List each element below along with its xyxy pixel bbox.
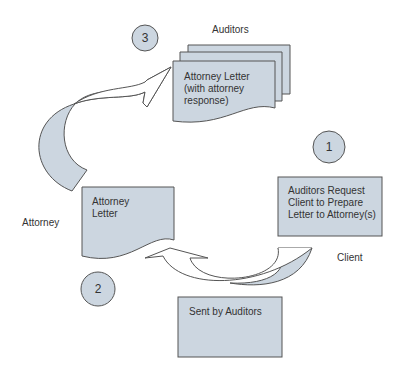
party-label-attorney: Attorney	[22, 217, 59, 229]
step-1-number: 1	[314, 140, 344, 154]
party-label-client: Client	[337, 252, 363, 264]
client-request-line-3: Letter to Attorney(s)	[288, 209, 376, 221]
client-request-text: Auditors Request Client to Prepare Lette…	[288, 185, 376, 221]
auditors-letter-line-1: Attorney Letter	[184, 71, 250, 83]
arrow-attorney-to-auditors-top	[74, 67, 171, 107]
client-request-line-2: Client to Prepare	[288, 197, 376, 209]
auditors-letter-line-2: (with attorney	[184, 83, 250, 95]
auditors-letter-text: Attorney Letter (with attorney response)	[184, 71, 250, 107]
auditors-letter-line-3: response)	[184, 95, 250, 107]
attorney-letter-line-1: Attorney	[92, 196, 129, 208]
step-3-number: 3	[130, 31, 160, 45]
attorney-letter-text: Attorney Letter	[92, 196, 129, 220]
attorney-letter-line-2: Letter	[92, 208, 129, 220]
party-label-auditors: Auditors	[212, 24, 249, 36]
sent-by-auditors-text: Sent by Auditors	[189, 306, 262, 318]
step-2-number: 2	[83, 282, 113, 296]
client-request-line-1: Auditors Request	[288, 185, 376, 197]
